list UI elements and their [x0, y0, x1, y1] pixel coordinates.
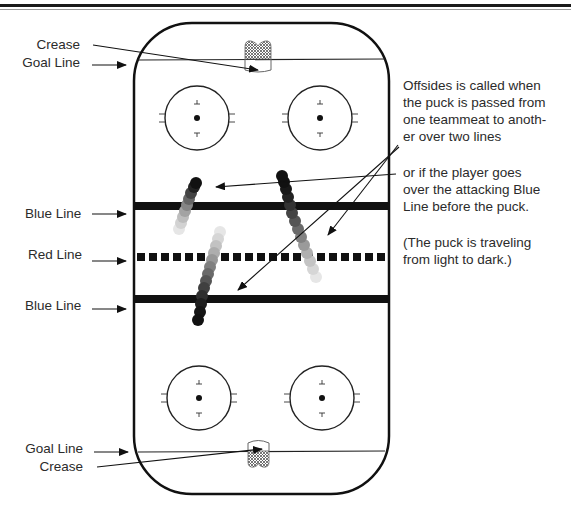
note-travel: (The puck is traveling from light to dar…	[403, 234, 571, 268]
note-travel-line1: (The puck is traveling	[403, 234, 571, 251]
faceoff-circle-top-left	[159, 86, 235, 150]
note-player-line3: Line before the puck.	[403, 198, 571, 215]
arrow-player-to-left	[216, 174, 396, 187]
note-offsides-line3: one teammeat to anoth-	[403, 111, 571, 128]
label-goal-line-top: Goal Line	[10, 54, 80, 71]
label-blue-line-top: Blue Line	[25, 205, 81, 222]
faceoff-circle-bottom-right	[284, 366, 360, 430]
note-player: or if the player goes over the attacking…	[403, 164, 571, 215]
note-offsides-line1: Offsides is called when	[403, 77, 571, 94]
note-offsides: Offsides is called when the puck is pass…	[403, 77, 571, 145]
faceoff-circle-bottom-left	[161, 366, 237, 430]
goal-net-bottom	[248, 451, 269, 467]
note-player-line2: over the attacking Blue	[403, 181, 571, 198]
label-goal-line-bottom: Goal Line	[10, 440, 83, 457]
note-travel-line2: from light to dark.)	[403, 251, 571, 268]
goal-net-top	[245, 41, 271, 59]
label-red-line: Red Line	[28, 246, 82, 263]
blue-line-bottom	[135, 295, 388, 303]
arrow-offsides-to-right	[328, 145, 398, 235]
puck-trail-2	[192, 226, 226, 326]
faceoff-circle-top-right	[282, 86, 358, 150]
label-crease-top: Crease	[20, 36, 80, 53]
label-crease-bottom: Crease	[20, 458, 83, 475]
note-offsides-line4: er over two lines	[403, 128, 571, 145]
arrow-crease-top	[93, 45, 258, 70]
goal-crease-top	[245, 59, 271, 72]
note-offsides-line2: the puck is passed from	[403, 94, 571, 111]
label-blue-line-bottom: Blue Line	[25, 297, 81, 314]
puck-trail-3	[276, 170, 322, 283]
note-player-line1: or if the player goes	[403, 164, 571, 181]
